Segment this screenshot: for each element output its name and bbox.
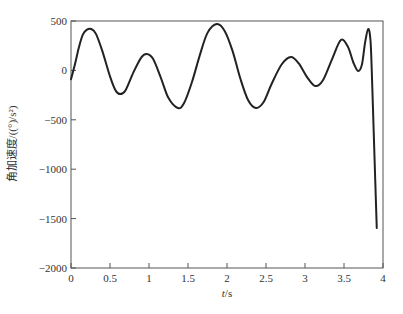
x-axis-title: t/s xyxy=(222,287,232,299)
y-tick-label: −2000 xyxy=(39,262,68,274)
y-axis-title: 角加速度/((°)/s²) xyxy=(5,105,19,182)
x-tick-label: 3.5 xyxy=(337,272,351,284)
x-tick-label: 2 xyxy=(224,272,230,284)
plot-frame xyxy=(71,21,383,268)
series-line xyxy=(71,24,377,228)
y-tick-label: −1500 xyxy=(39,213,68,225)
y-tick-label: −500 xyxy=(44,114,67,126)
x-tick-label: 3 xyxy=(302,272,308,284)
x-tick-label: 1.5 xyxy=(181,272,195,284)
x-axis-ticks: 00.511.522.533.54 xyxy=(68,263,386,284)
x-tick-label: 4 xyxy=(380,272,386,284)
x-tick-label: 2.5 xyxy=(259,272,273,284)
y-tick-label: 0 xyxy=(62,64,68,76)
y-tick-label: 500 xyxy=(51,15,68,27)
y-axis-ticks: −2000−1500−1000−5000500 xyxy=(39,15,76,274)
line-chart: −2000−1500−1000−5000500 00.511.522.533.5… xyxy=(0,0,403,314)
x-tick-label: 0.5 xyxy=(103,272,117,284)
y-tick-label: −1000 xyxy=(39,163,68,175)
x-tick-label: 0 xyxy=(68,272,74,284)
x-tick-label: 1 xyxy=(146,272,152,284)
